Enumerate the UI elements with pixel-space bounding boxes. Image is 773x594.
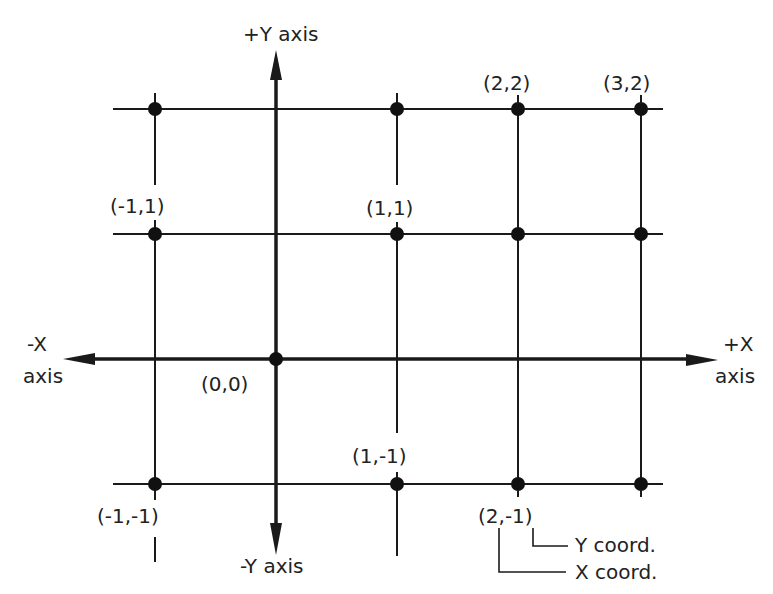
y-coord-annotation: Y coord. xyxy=(575,535,656,555)
point-1-1 xyxy=(390,227,404,241)
x-coord-annotation: X coord. xyxy=(575,562,657,582)
point-label: (-1,-1) xyxy=(97,506,159,526)
point-label: (2,2) xyxy=(483,73,530,93)
pos-y-axis-label: +Y axis xyxy=(243,24,318,44)
point-3-1 xyxy=(634,227,648,241)
point-label: (1,-1) xyxy=(352,446,407,466)
coordinate-diagram: +Y axis -Y axis -X axis +X axis (2,2) (3… xyxy=(0,0,773,594)
label-ticks xyxy=(518,95,641,497)
point-3-2 xyxy=(634,102,648,116)
point-origin xyxy=(269,352,283,366)
point-label: (2,-1) xyxy=(478,506,533,526)
point-2-2 xyxy=(511,102,525,116)
axis-arrows xyxy=(63,50,718,555)
pos-x-axis-label-line1: +X xyxy=(723,334,753,354)
point-m1-1 xyxy=(148,227,162,241)
pos-x-axis-label-line2: axis xyxy=(715,366,755,386)
point-3-m1 xyxy=(634,477,648,491)
point-2-1 xyxy=(511,227,525,241)
arrow-right-icon xyxy=(686,354,718,366)
arrow-left-icon xyxy=(63,353,95,365)
point-2-m1 xyxy=(511,477,525,491)
point-label: (3,2) xyxy=(603,73,650,93)
grid-lines xyxy=(113,93,663,562)
point-m1-m1 xyxy=(148,477,162,491)
arrow-up-icon xyxy=(270,50,282,80)
neg-y-axis-label: -Y axis xyxy=(240,556,304,576)
neg-x-axis-label-line1: -X xyxy=(27,334,47,354)
point-label: (1,1) xyxy=(366,198,413,218)
coord-brackets xyxy=(499,528,568,572)
point-label: (0,0) xyxy=(201,374,248,394)
y-coord-bracket xyxy=(533,528,568,546)
point-1-2 xyxy=(390,102,404,116)
point-1-m1 xyxy=(390,477,404,491)
arrow-down-icon xyxy=(270,523,282,555)
point-m1-2 xyxy=(148,102,162,116)
neg-x-axis-label-line2: axis xyxy=(23,366,63,386)
point-label: (-1,1) xyxy=(110,196,165,216)
